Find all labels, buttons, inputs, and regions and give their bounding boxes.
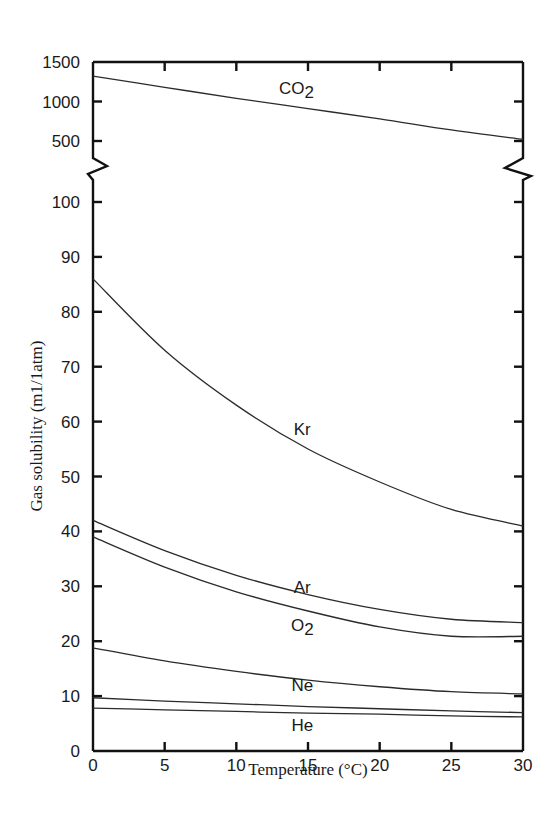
- y-tick-label: 10: [61, 687, 80, 706]
- series-label-kr: Kr: [294, 420, 311, 439]
- y-tick-label-upper: 1000: [42, 93, 80, 112]
- x-tick-label: 20: [370, 756, 389, 775]
- y-tick-label-upper: 500: [52, 132, 80, 151]
- y-tick-label: 40: [61, 522, 80, 541]
- y-axis-title: Gas solubility (m1/1atm): [27, 341, 46, 512]
- y-tick-label-upper: 1500: [42, 53, 80, 72]
- x-tick-label: 0: [88, 756, 97, 775]
- x-tick-label: 30: [514, 756, 533, 775]
- y-tick-label: 0: [71, 742, 80, 761]
- series-label-co2: CO2: [279, 79, 314, 102]
- y-tick-label: 30: [61, 577, 80, 596]
- x-tick-label: 5: [160, 756, 169, 775]
- curve-kr: [93, 279, 523, 526]
- series-label-ne: Ne: [291, 676, 313, 695]
- curve-ne: [93, 698, 523, 713]
- series-label-ar: Ar: [294, 578, 311, 597]
- x-axis-title: Temperature (°C): [248, 760, 367, 779]
- series-label-o2: O2: [291, 616, 314, 639]
- curve-ar: [93, 520, 523, 622]
- series-labels: CO2KrArO2NeHe: [279, 79, 314, 736]
- y-tick-label: 70: [61, 358, 80, 377]
- axis-tick-labels: 0510152025300102030405060708090100500100…: [42, 53, 532, 775]
- y-tick-label: 60: [61, 413, 80, 432]
- y-axis-line-left-with-break: [88, 62, 107, 751]
- plot-frame: [88, 62, 531, 751]
- series-label-he: He: [291, 716, 313, 735]
- x-tick-label: 10: [227, 756, 246, 775]
- axis-ticks: [93, 62, 523, 751]
- y-axis-line-right-with-break: [505, 62, 531, 751]
- y-tick-label: 20: [61, 632, 80, 651]
- y-tick-label: 50: [61, 468, 80, 487]
- y-tick-label: 80: [61, 303, 80, 322]
- y-tick-label: 100: [52, 193, 80, 212]
- x-tick-label: 25: [442, 756, 461, 775]
- gas-solubility-chart: 0510152025300102030405060708090100500100…: [0, 0, 555, 829]
- y-tick-label: 90: [61, 248, 80, 267]
